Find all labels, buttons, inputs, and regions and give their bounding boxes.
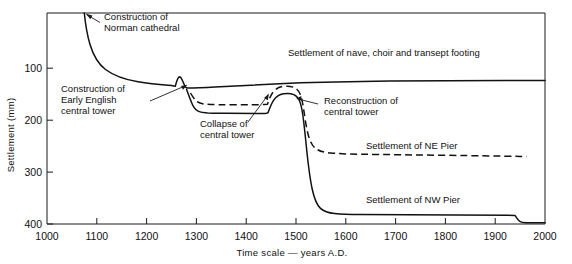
leader-early-english	[150, 85, 187, 101]
label-reconstruction-line1: Reconstruction of	[324, 95, 398, 106]
y-axis-ticks	[47, 68, 53, 224]
x-tick-label-1200: 1200	[135, 230, 159, 242]
y-tick-label-200: 200	[24, 114, 42, 126]
plot-box	[47, 13, 545, 224]
label-early-english-line3: central tower	[61, 105, 115, 116]
x-tick-label-1900: 1900	[484, 230, 508, 242]
x-axis-ticks	[97, 218, 495, 224]
x-tick-label-1300: 1300	[185, 230, 209, 242]
leader-norman	[86, 14, 100, 23]
x-tick-label-1100: 1100	[86, 230, 109, 242]
plot-frame	[47, 13, 545, 224]
y-tick-label-300: 300	[24, 166, 42, 178]
x-axis-title: Time scale — years A.D.	[236, 247, 347, 258]
x-tick-label-2000: 2000	[533, 230, 557, 242]
chart-canvas: 100 200 300 400 1000 1100 1200 1300 1400…	[0, 0, 572, 264]
settlement-time-chart: 100 200 300 400 1000 1100 1200 1300 1400…	[0, 0, 572, 264]
label-collapse-line1: Collapse of	[200, 118, 248, 129]
x-tick-label-1400: 1400	[235, 230, 259, 242]
y-tick-label-400: 400	[24, 218, 42, 230]
x-tick-label-1500: 1500	[284, 230, 308, 242]
leader-collapse	[248, 94, 269, 123]
label-collapse-line2: central tower	[200, 129, 254, 140]
x-tick-label-1700: 1700	[384, 230, 408, 242]
label-ne-pier: Settlement of NE Pier	[366, 140, 457, 151]
label-norman-line1: Construction of	[104, 11, 168, 22]
label-early-english-line2: Early English	[61, 94, 116, 105]
x-tick-label-1600: 1600	[334, 230, 358, 242]
x-tick-label-1800: 1800	[434, 230, 458, 242]
x-tick-label-1000: 1000	[35, 230, 59, 242]
y-tick-label-100: 100	[24, 62, 42, 74]
label-reconstruction-line2: central tower	[324, 106, 378, 117]
y-axis-title: Settlement (mm)	[5, 98, 16, 173]
label-nave-footing: Settlement of nave, choir and transept f…	[288, 47, 480, 58]
label-nw-pier: Settlement of NW Pier	[366, 194, 460, 205]
label-norman-line2: Norman cathedral	[104, 22, 180, 33]
label-early-english-line1: Construction of	[61, 83, 125, 94]
